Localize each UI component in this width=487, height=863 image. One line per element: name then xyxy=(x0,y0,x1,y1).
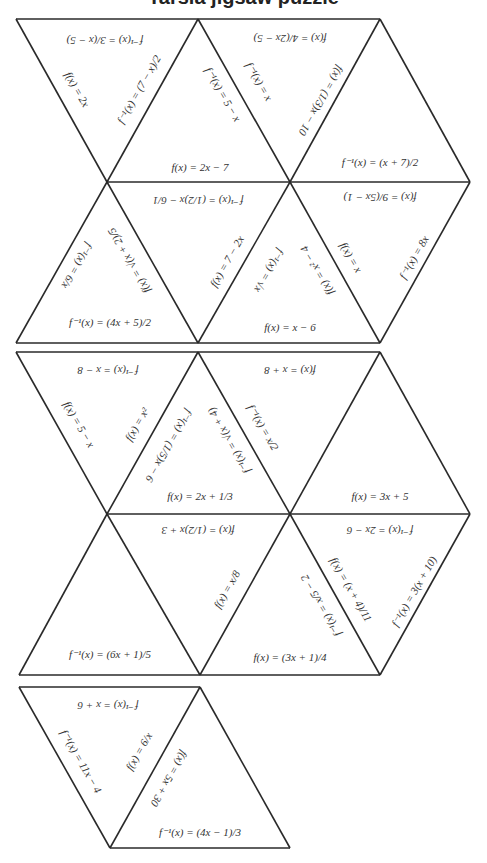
edge-label: f⁻¹(x) = (1/5)x − 6 xyxy=(142,407,195,485)
edge-label: f(x) = (3x + 1)/4 xyxy=(254,651,327,664)
edge-label: f⁻¹(x) = x + 6 xyxy=(77,699,138,712)
edge-label: f⁻¹(x) = (4x − 1)/3 xyxy=(159,826,242,839)
edge-label: f⁻¹(x) = x/5 − 2 xyxy=(298,572,344,639)
edge-label: f⁻¹(x) = 3(x + 10) xyxy=(389,554,440,629)
edge-label: f⁻¹(x) = 3/(x − 5) xyxy=(66,34,143,47)
edge-label: f(x) = √(x + 2)/5 xyxy=(105,225,153,296)
edge-label: f(x) = 3x + 5 xyxy=(352,490,409,503)
edge-label: f(x) = (x + 4)/11 xyxy=(327,555,374,624)
edge-label: f(x) = 9/(5x − 1) xyxy=(343,191,416,204)
edge-label: f⁻¹(x) = (1/2)x − 6/1 xyxy=(153,194,244,207)
edge-label: f(x) = 2x + 1/3 xyxy=(167,490,233,503)
edge-label: f⁻¹(x) = √x xyxy=(251,246,287,295)
edge-label: f(x) = (1/2)x + 3 xyxy=(161,524,234,537)
edge-label: f(x) = x² − 4 xyxy=(298,243,337,297)
puzzle-piece-2[interactable] xyxy=(16,352,470,675)
edge-label: f⁻¹(x) = 8x xyxy=(397,233,432,281)
edge-label: f(x) = 2x − 7 xyxy=(172,161,229,174)
edge-label: f(x) = x xyxy=(337,240,365,275)
edge-label: f⁻¹(x) = (6x + 1)/5 xyxy=(69,648,152,661)
edge-labels: f⁻¹(x) = 3/(x − 5)f(x) = 2xf⁻¹(x) = (7 −… xyxy=(57,32,439,838)
edge-label: f⁻¹(x) = 6/x xyxy=(58,240,95,291)
edge-label: f⁻¹(x) = (x + 7)/2 xyxy=(342,156,419,169)
puzzle-piece-1[interactable] xyxy=(16,19,470,343)
edge-label: f⁻¹(x) = 5 − x xyxy=(202,65,244,124)
edge-label: f⁻¹(x) = 11x − 4 xyxy=(57,728,104,796)
edge-label: f⁻¹(x) = x/2 xyxy=(244,402,281,453)
edge-label: f(x) = 7 − 2x xyxy=(207,233,247,289)
edge-label: f⁻¹(x) = √(x + 4) xyxy=(205,405,254,476)
edge-label: f⁻¹(x) = (7 − x)/2 xyxy=(114,53,164,126)
edge-label: f⁻¹(x) = 2x − 6 xyxy=(346,524,413,537)
puzzle-board: f⁻¹(x) = 3/(x − 5)f(x) = 2xf⁻¹(x) = (7 −… xyxy=(0,0,487,863)
puzzle-piece-3[interactable] xyxy=(19,687,290,848)
edge-label: f(x) = x + 8 xyxy=(264,364,316,377)
edge-label: f⁻¹(x) = x − 8 xyxy=(77,364,138,377)
edge-label: f(x) = x² xyxy=(122,405,152,444)
edge-label: f(x) = 4/(2x − 5) xyxy=(253,32,326,45)
edge-label: f(x) = 2x xyxy=(62,70,93,110)
edge-label: f⁻¹(x) = (4x + 5)/2 xyxy=(69,316,152,329)
edge-label: f⁻¹(x) = x xyxy=(243,60,276,103)
edge-label: f(x) = 5 − x xyxy=(60,399,97,450)
edge-label: f(x) = 5x + 30 xyxy=(147,748,190,809)
edge-label: f(x) = x − 6 xyxy=(264,321,316,334)
edge-label: f(x) = 6/x xyxy=(123,730,155,773)
